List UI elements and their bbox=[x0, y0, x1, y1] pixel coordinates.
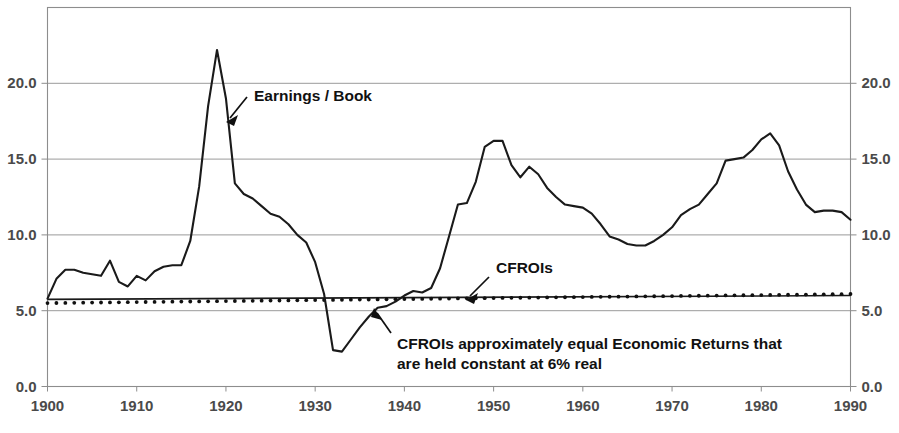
cfroi-dot bbox=[108, 301, 112, 305]
cfroi-dot bbox=[367, 298, 371, 302]
cfroi-dot bbox=[46, 301, 50, 305]
y-axis-label-right-1: 15.0 bbox=[862, 150, 891, 167]
cfroi-dot bbox=[224, 299, 228, 303]
cfroi-dot bbox=[278, 299, 282, 303]
cfroi-dot bbox=[643, 294, 647, 298]
cfroi-dot bbox=[340, 298, 344, 302]
cfroi-dot bbox=[715, 294, 719, 298]
cfroi-dot bbox=[171, 300, 175, 304]
cfroi-dot bbox=[358, 298, 362, 302]
annotation-note-line1: CFROIs approximately equal Economic Retu… bbox=[397, 335, 782, 352]
x-axis-label-1970: 1970 bbox=[655, 397, 688, 414]
cfroi-dot bbox=[402, 297, 406, 301]
cfroi-dot bbox=[313, 298, 317, 302]
cfroi-dot bbox=[376, 297, 380, 301]
cfroi-dot bbox=[179, 300, 183, 304]
cfroi-dot bbox=[242, 299, 246, 303]
cfroi-dot bbox=[287, 298, 291, 302]
cfroi-dot bbox=[269, 299, 273, 303]
cfroi-dot bbox=[126, 300, 130, 304]
cfroi-dot bbox=[822, 292, 826, 296]
cfroi-dot bbox=[572, 295, 576, 299]
y-axis-label-left-1: 15.0 bbox=[7, 150, 36, 167]
cfroi-dot bbox=[527, 296, 531, 300]
cfroi-dot bbox=[679, 294, 683, 298]
cfroi-dot bbox=[260, 299, 264, 303]
cfroi-dot bbox=[295, 298, 299, 302]
cfroi-dot bbox=[706, 294, 710, 298]
cfroi-dot bbox=[233, 299, 237, 303]
x-axis-label-1990: 1990 bbox=[834, 397, 867, 414]
cfroi-dot bbox=[563, 295, 567, 299]
cfroi-dot bbox=[590, 295, 594, 299]
y-axis-label-right-0: 20.0 bbox=[862, 74, 891, 91]
cfroi-dot bbox=[634, 295, 638, 299]
cfroi-dot bbox=[55, 301, 59, 305]
cfroi-dot bbox=[626, 295, 630, 299]
cfroi-dot bbox=[670, 294, 674, 298]
cfroi-dot bbox=[554, 295, 558, 299]
cfroi-dot bbox=[492, 296, 496, 300]
cfroi-dot bbox=[411, 297, 415, 301]
cfroi-dot bbox=[661, 294, 665, 298]
x-axis-label-1900: 1900 bbox=[31, 397, 64, 414]
cfroi-dot bbox=[206, 299, 210, 303]
x-axis-label-1960: 1960 bbox=[566, 397, 599, 414]
cfroi-dot bbox=[304, 298, 308, 302]
cfroi-dot bbox=[215, 299, 219, 303]
y-axis-label-left-0: 20.0 bbox=[7, 74, 36, 91]
cfroi-dot bbox=[831, 292, 835, 296]
y-axis-label-right-3: 5.0 bbox=[862, 302, 883, 319]
x-axis-label-1910: 1910 bbox=[120, 397, 153, 414]
y-axis-label-left-4: 0.0 bbox=[16, 378, 37, 395]
cfroi-dot bbox=[331, 298, 335, 302]
cfroi-dot bbox=[81, 301, 85, 305]
cfroi-dot bbox=[733, 293, 737, 297]
chart-figure: 20.015.010.05.00.0 20.015.010.05.00.0 19… bbox=[0, 0, 899, 433]
cfroi-dot bbox=[608, 295, 612, 299]
cfroi-dot bbox=[456, 297, 460, 301]
cfroi-dot bbox=[545, 296, 549, 300]
cfroi-dot bbox=[759, 293, 763, 297]
cfroi-dot bbox=[72, 301, 76, 305]
cfroi-dot bbox=[742, 293, 746, 297]
cfroi-dot bbox=[777, 293, 781, 297]
cfroi-dot bbox=[697, 294, 701, 298]
cfroi-dot bbox=[501, 296, 505, 300]
y-axis-label-left-2: 10.0 bbox=[7, 226, 36, 243]
cfroi-dot bbox=[581, 295, 585, 299]
x-axis-label-1950: 1950 bbox=[477, 397, 510, 414]
y-axis-label-right-4: 0.0 bbox=[862, 378, 883, 395]
cfroi-dot bbox=[117, 300, 121, 304]
x-axis-label-1940: 1940 bbox=[388, 397, 421, 414]
cfroi-dot bbox=[99, 301, 103, 305]
cfroi-dot bbox=[385, 297, 389, 301]
cfroi-dot bbox=[786, 293, 790, 297]
y-axis-label-left-3: 5.0 bbox=[16, 302, 37, 319]
cfroi-dot bbox=[536, 296, 540, 300]
cfroi-dot bbox=[420, 297, 424, 301]
chart-canvas: 20.015.010.05.00.0 20.015.010.05.00.0 19… bbox=[0, 0, 899, 433]
cfroi-dot bbox=[599, 295, 603, 299]
cfroi-dot bbox=[483, 296, 487, 300]
cfroi-dot bbox=[652, 294, 656, 298]
cfroi-dot bbox=[349, 298, 353, 302]
cfroi-dot bbox=[795, 293, 799, 297]
cfroi-dot bbox=[849, 292, 853, 296]
cfroi-dot bbox=[768, 293, 772, 297]
cfroi-dot bbox=[724, 294, 728, 298]
cfroi-dot bbox=[840, 292, 844, 296]
cfroi-dot bbox=[153, 300, 157, 304]
cfroi-dot bbox=[518, 296, 522, 300]
cfroi-dot bbox=[813, 293, 817, 297]
cfroi-dot bbox=[197, 300, 201, 304]
cfroi-dot bbox=[804, 293, 808, 297]
cfroi-dot bbox=[617, 295, 621, 299]
cfroi-dot bbox=[447, 297, 451, 301]
annotation-cfrois-label: CFROIs bbox=[496, 259, 553, 276]
cfroi-dot bbox=[162, 300, 166, 304]
annotation-earnings-label: Earnings / Book bbox=[254, 87, 372, 104]
x-axis-label-1930: 1930 bbox=[298, 397, 331, 414]
cfroi-dot bbox=[429, 297, 433, 301]
x-axis-label-1920: 1920 bbox=[209, 397, 242, 414]
